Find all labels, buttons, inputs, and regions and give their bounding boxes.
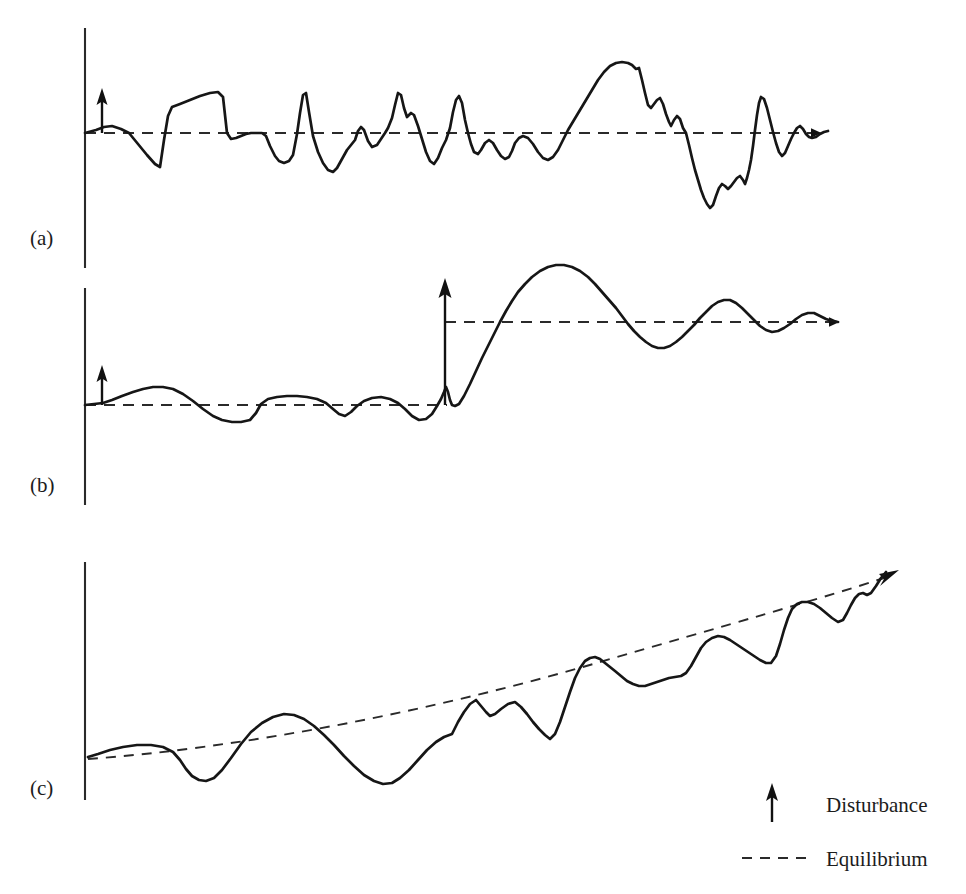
figure-root: (a) (b) (c) [0,0,966,894]
panel-b-label: (b) [30,473,55,497]
legend-up-arrow-icon [766,783,778,822]
legend-label-equilibrium: Equilibrium [826,847,928,871]
panel-b-disturbance-arrow-1 [97,365,108,405]
panel-c-series [88,572,886,784]
panel-c-label: (c) [30,776,53,800]
panel-c-equilibrium-trend [88,578,884,759]
panel-c: (c) [30,562,899,800]
legend-item-disturbance: Disturbance [766,783,927,822]
panel-b-disturbance-arrow-2 [439,278,452,405]
panel-a: (a) [30,28,828,268]
legend-label-disturbance: Disturbance [826,793,927,817]
legend-item-equilibrium: Equilibrium [742,847,928,871]
panel-b-series [85,265,838,422]
disturbance-equilibrium-figure: (a) (b) (c) [0,0,966,894]
legend: Disturbance Equilibrium [742,783,928,871]
panel-a-series [85,62,828,208]
panel-b: (b) [30,265,838,505]
panel-a-label: (a) [30,226,53,250]
